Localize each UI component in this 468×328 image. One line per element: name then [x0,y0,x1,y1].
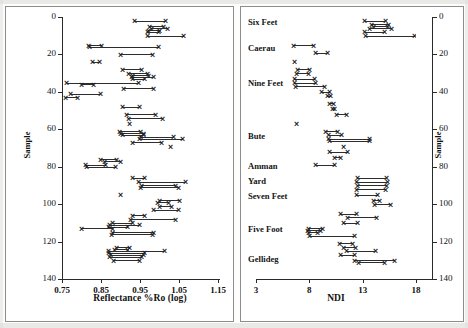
axis-tick-label: 100 [439,199,453,208]
data-point-marker [341,144,346,149]
axis-tick-label: 40 [47,87,56,96]
axis-tick-label: 0 [52,12,57,21]
data-range-segment [104,161,120,162]
data-range-segment [308,232,318,233]
data-range-segment [309,236,354,237]
data-range-segment [294,79,314,80]
data-range-segment [71,94,101,95]
axis-tick [58,17,62,18]
data-range-segment [113,260,139,261]
seam-label-seven-feet: Seven Feet [248,192,287,201]
data-range-segment [110,225,140,226]
data-range-segment [333,109,335,110]
data-range-segment [132,142,161,143]
data-range-segment [329,139,370,140]
data-range-segment [89,45,102,46]
data-range-segment [357,185,386,186]
axis-tick [58,92,62,93]
data-range-segment [374,204,390,205]
data-range-segment [132,75,148,76]
data-range-segment [122,107,139,108]
data-range-segment [113,232,154,233]
axis-tick [433,129,437,130]
data-range-segment [109,251,164,252]
data-range-segment [371,24,388,25]
data-range-segment [133,178,145,179]
data-range-segment [307,230,320,231]
data-range-segment [154,210,179,211]
data-range-segment [298,69,310,70]
axis-tick [58,54,62,55]
data-range-segment [142,185,175,186]
data-range-segment [339,243,352,244]
data-range-segment [134,21,165,22]
data-range-segment [126,114,155,115]
data-range-segment [356,182,387,183]
axis-tick [101,279,102,283]
axis-tick-label: 60 [439,124,448,133]
axis-tick-label: 120 [43,237,57,246]
ndi-plot-area [256,17,416,279]
reflectance-y-axis-title: Sample [22,115,32,175]
data-point-marker [168,144,173,149]
scan-artifact-top [0,0,468,4]
data-point-marker [127,121,132,126]
data-range-segment [141,187,178,188]
axis-tick [433,204,437,205]
axis-tick-label: 1.15 [210,285,226,295]
axis-tick [58,204,62,205]
data-range-segment [329,135,342,136]
data-range-segment [340,255,354,256]
axis-tick [433,17,437,18]
axis-tick-label: 18 [412,285,421,295]
data-range-segment [139,139,183,140]
data-range-segment [373,200,379,201]
data-range-segment [354,260,395,261]
data-range-segment [117,247,129,248]
axis-tick-label: 40 [439,87,448,96]
data-range-segment [316,165,335,166]
data-range-segment [330,152,348,153]
data-range-segment [336,114,347,115]
scan-artifact-left [0,0,3,328]
data-range-segment [308,228,322,229]
data-range-segment [124,88,154,89]
data-range-segment [120,131,141,132]
axis-tick-label: 3 [254,285,259,295]
axis-tick-label: 140 [43,274,57,283]
data-range-segment [297,73,309,74]
axis-tick [140,279,141,283]
axis-spine [62,17,63,279]
axis-tick [416,279,417,283]
axis-tick [256,279,257,283]
data-range-segment [365,32,384,33]
data-range-segment [86,167,116,168]
axis-tick-label: 13 [358,285,367,295]
axis-tick-label: 8 [307,285,312,295]
data-range-segment [293,45,313,46]
seam-label-yard: Yard [248,177,266,186]
seam-label-nine-feet: Nine Feet [248,79,283,88]
data-range-segment [140,137,173,138]
data-range-segment [121,54,153,55]
axis-tick-label: 80 [439,162,448,171]
data-range-segment [113,223,133,224]
axis-tick [309,279,310,283]
data-point-marker [118,192,123,197]
data-range-segment [128,118,162,119]
axis-tick-label: 0.85 [93,285,109,295]
axis-tick [433,92,437,93]
axis-tick-label: 80 [47,162,56,171]
seam-label-amman: Amman [248,162,278,171]
data-range-segment [89,47,158,48]
data-range-segment [149,30,160,31]
data-range-segment [316,53,328,54]
axis-tick-label: 100 [43,199,57,208]
axis-tick-label: 0.75 [54,285,70,295]
data-range-segment [356,189,385,190]
data-point-marker [292,59,297,64]
data-range-segment [152,28,168,29]
data-range-segment [115,249,128,250]
data-range-segment [330,103,334,104]
data-range-segment [130,219,175,220]
